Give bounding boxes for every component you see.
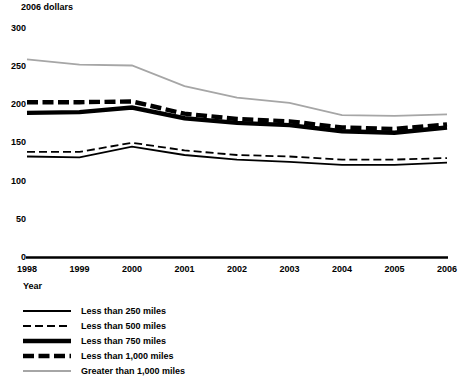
legend-label: Less than 250 miles — [81, 304, 166, 318]
legend-label: Less than 750 miles — [81, 334, 166, 348]
legend-swatch-line — [23, 304, 71, 318]
legend-item[interactable]: Less than 750 miles — [23, 333, 323, 348]
legend-item[interactable]: Less than 250 miles — [23, 303, 323, 318]
legend-label: Less than 500 miles — [81, 319, 166, 333]
plot-area — [0, 0, 462, 300]
legend-swatch-line — [23, 319, 71, 333]
series-line-1 — [27, 143, 447, 160]
series-line-4 — [27, 59, 447, 116]
legend-label: Less than 1,000 miles — [81, 349, 174, 363]
legend-item[interactable]: Less than 1,000 miles — [23, 348, 323, 363]
legend-swatch-line — [23, 349, 71, 363]
legend-item[interactable]: Less than 500 miles — [23, 318, 323, 333]
legend-item[interactable]: Greater than 1,000 miles — [23, 363, 323, 378]
legend-swatch-line — [23, 334, 71, 348]
chart-figure: 2006 dollars 300250200150100500 19981999… — [0, 0, 462, 380]
chart-legend: Less than 250 milesLess than 500 milesLe… — [23, 303, 323, 378]
legend-swatch-line — [23, 364, 71, 378]
legend-label: Greater than 1,000 miles — [81, 364, 185, 378]
